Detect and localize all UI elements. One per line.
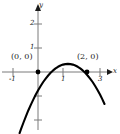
y-tick-label-1: 1: [30, 44, 34, 51]
x-tick-label--1: -1: [9, 76, 16, 83]
parabola-plot: [0, 0, 120, 134]
root-point-0-0: [36, 70, 41, 75]
y-tick-label-2: 2: [30, 20, 34, 27]
graph-figure: -1 1 3 1 2 x y (0, 0) (2, 0): [0, 0, 120, 134]
point-label-two-zero: (2, 0): [77, 53, 99, 61]
root-point-2-0: [85, 70, 90, 75]
y-axis-label: y: [39, 2, 43, 9]
point-label-origin: (0, 0): [11, 53, 33, 61]
x-tick-label-1: 1: [61, 76, 65, 83]
x-axis-label: x: [113, 68, 117, 75]
x-tick-label-3: 3: [98, 76, 102, 83]
